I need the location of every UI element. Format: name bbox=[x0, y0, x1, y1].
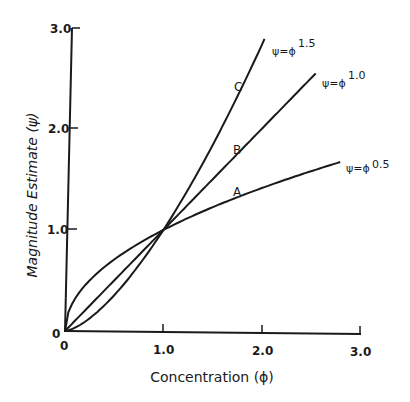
eq-b-exponent: 1.0 bbox=[348, 69, 366, 82]
eq-b-base: ψ=ϕ bbox=[322, 77, 346, 90]
curve-label-c: C bbox=[234, 80, 242, 94]
equation-label-c: ψ=ϕ 1.5 bbox=[272, 37, 316, 58]
eq-c-exponent: 1.5 bbox=[298, 37, 316, 50]
curve-b-linear bbox=[65, 74, 316, 332]
curve-label-a: A bbox=[233, 185, 242, 199]
tick-labels: 3.0 2.0 1.0 0 0 1.0 2.0 3.0 bbox=[47, 22, 371, 359]
y-tick-label-3: 3.0 bbox=[50, 22, 71, 36]
curves bbox=[65, 39, 340, 331]
y-tick-label-1: 1.0 bbox=[47, 223, 68, 237]
x-tick-label-1: 1.0 bbox=[153, 343, 174, 357]
y-axis-title: Magnitude Estimate (ψ) bbox=[24, 112, 40, 277]
y-axis bbox=[65, 28, 72, 332]
eq-c-base: ψ=ϕ bbox=[272, 45, 296, 58]
curve-a-sqrt bbox=[65, 162, 340, 331]
axes bbox=[65, 28, 361, 334]
x-axis-title: Concentration (ϕ) bbox=[150, 369, 274, 385]
x-origin-label: 0 bbox=[60, 339, 68, 353]
equation-label-a: ψ=ϕ 0.5 bbox=[346, 158, 390, 175]
curve-label-b: B bbox=[233, 143, 241, 157]
x-tick-label-2: 2.0 bbox=[252, 344, 273, 358]
eq-a-exponent: 0.5 bbox=[372, 158, 390, 171]
power-function-chart: 3.0 2.0 1.0 0 0 1.0 2.0 3.0 Concentratio… bbox=[0, 0, 410, 402]
eq-a-base: ψ=ϕ bbox=[346, 162, 370, 175]
x-axis bbox=[65, 331, 361, 334]
y-tick-label-2: 2.0 bbox=[48, 122, 69, 136]
x-tick-label-3: 3.0 bbox=[350, 345, 371, 359]
equation-label-b: ψ=ϕ 1.0 bbox=[322, 69, 366, 90]
